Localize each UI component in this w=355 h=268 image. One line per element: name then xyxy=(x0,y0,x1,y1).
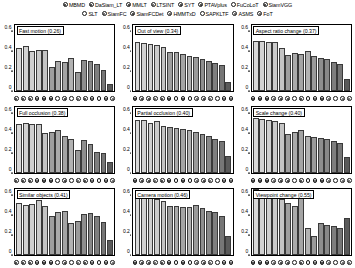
y-tick-label: 0.4 xyxy=(5,45,12,50)
legend-item-siamfcdet[interactable]: SiamFCDet xyxy=(130,11,163,17)
legend-item-label: ASMS xyxy=(238,11,253,17)
x-tick-marker-icon xyxy=(299,96,304,101)
bar xyxy=(167,52,173,91)
y-tick-label: 0.6 xyxy=(123,25,130,30)
x-tick-marker-icon xyxy=(251,178,256,183)
x-tick-marker-icon xyxy=(76,178,81,183)
bar xyxy=(318,223,324,255)
legend-marker-icon xyxy=(232,11,237,16)
x-axis xyxy=(132,257,233,268)
x-tick-marker-icon xyxy=(90,178,95,183)
legend-item-asms[interactable]: ASMS xyxy=(232,11,253,17)
subplot-panel: 00.20.40.6Camera motion (0.46) xyxy=(118,186,236,268)
x-tick-marker-icon xyxy=(62,96,67,101)
bar xyxy=(55,130,61,173)
subplot-full-occlusion: 00.20.40.6Full occlusion (0.38) xyxy=(0,104,118,186)
bar xyxy=(219,65,225,91)
bar xyxy=(344,157,350,173)
legend-item-mbmd[interactable]: MBMD xyxy=(63,2,85,8)
x-tick-marker-icon xyxy=(333,260,338,265)
legend-item-ptavplus[interactable]: PTAVplus xyxy=(198,2,226,8)
y-tick-mark xyxy=(248,235,250,236)
y-tick-mark xyxy=(130,195,132,196)
legend-item-siamvgg[interactable]: SiamVGG xyxy=(263,2,293,8)
y-tick-label: 0 xyxy=(245,249,248,254)
x-tick-marker-icon xyxy=(194,96,199,101)
bar xyxy=(36,200,42,255)
legend-marker-icon xyxy=(178,2,183,7)
bar xyxy=(94,64,100,91)
y-tick-label: 0.6 xyxy=(241,107,248,112)
x-tick-marker-icon xyxy=(42,178,47,183)
legend-item-fot[interactable]: FoT xyxy=(257,11,272,17)
legend-item-hmmtxd[interactable]: HMMTxD xyxy=(167,11,195,17)
legend-item-siamfc[interactable]: SiamFC xyxy=(102,11,127,17)
x-tick-marker-icon xyxy=(146,178,151,183)
x-tick-marker-icon xyxy=(292,178,297,183)
y-axis: 00.20.40.6 xyxy=(0,24,13,92)
x-axis xyxy=(14,175,115,186)
subplot-title: Similar objects (0.41) xyxy=(17,190,71,199)
x-tick-marker-icon xyxy=(201,260,206,265)
x-axis xyxy=(251,175,352,186)
x-tick-marker-icon xyxy=(181,178,186,183)
bar xyxy=(298,192,304,255)
subplot-title: Aspect ratio change (0.37) xyxy=(253,26,319,35)
bar xyxy=(187,56,193,91)
y-tick-mark xyxy=(11,235,13,236)
bar xyxy=(305,51,311,91)
bar xyxy=(337,64,343,91)
legend-item-label: SiamVGG xyxy=(269,2,293,8)
x-tick-marker-icon xyxy=(285,260,290,265)
legend-item-ltsint[interactable]: LTSINT xyxy=(151,2,175,8)
bar xyxy=(193,205,199,255)
x-tick-marker-icon xyxy=(133,260,138,265)
bar xyxy=(206,61,212,91)
legend-item-label: SiamFC xyxy=(108,11,127,17)
legend-item-sapkltf[interactable]: SAPKLTF xyxy=(200,11,229,17)
y-tick-label: 0.2 xyxy=(123,65,130,70)
y-tick-mark xyxy=(248,133,250,134)
x-tick-marker-icon xyxy=(292,260,297,265)
subplot-title: Viewpoint change (0.55) xyxy=(253,190,314,199)
x-tick-marker-icon xyxy=(222,260,227,265)
x-tick-marker-icon xyxy=(90,260,95,265)
bar xyxy=(285,203,291,255)
x-tick-marker-icon xyxy=(62,178,67,183)
x-tick-marker-icon xyxy=(174,96,179,101)
legend-marker-icon xyxy=(257,11,262,16)
x-tick-marker-icon xyxy=(167,260,172,265)
bar xyxy=(42,206,48,256)
bar xyxy=(259,119,265,173)
bar xyxy=(253,118,259,173)
bar xyxy=(279,199,285,255)
y-tick-mark xyxy=(11,133,13,134)
bar xyxy=(318,138,324,173)
y-tick-label: 0.2 xyxy=(241,229,248,234)
legend-item-mmlt[interactable]: MMLT xyxy=(126,2,146,8)
bar xyxy=(311,56,317,91)
x-tick-marker-icon xyxy=(340,260,345,265)
y-tick-mark xyxy=(11,153,13,154)
bar xyxy=(337,228,343,255)
legend-marker-icon xyxy=(130,11,135,16)
x-tick-marker-icon xyxy=(313,178,318,183)
subplot-panel: 00.20.40.6Fast motion (0.26) xyxy=(0,22,118,104)
y-tick-label: 0.4 xyxy=(241,45,248,50)
y-axis: 00.20.40.6 xyxy=(118,188,131,256)
y-tick-label: 0.2 xyxy=(123,147,130,152)
bar xyxy=(292,132,298,173)
legend-marker-icon xyxy=(63,2,68,7)
x-tick-marker-icon xyxy=(340,178,345,183)
subplot-panel: 00.20.40.6Similar objects (0.41) xyxy=(0,186,118,268)
legend-item-slt[interactable]: SLT xyxy=(82,11,97,17)
legend-item-syt[interactable]: SYT xyxy=(178,2,194,8)
y-tick-mark xyxy=(11,51,13,52)
bar xyxy=(311,137,317,173)
legend-item-dasiam_lt[interactable]: DaSiam_LT xyxy=(89,2,122,8)
y-tick-mark xyxy=(11,255,13,256)
legend-item-label: MBMD xyxy=(69,2,85,8)
y-tick-mark xyxy=(248,215,250,216)
bar xyxy=(225,236,231,255)
legend-item-fucolot[interactable]: FuCoLoT xyxy=(231,2,259,8)
